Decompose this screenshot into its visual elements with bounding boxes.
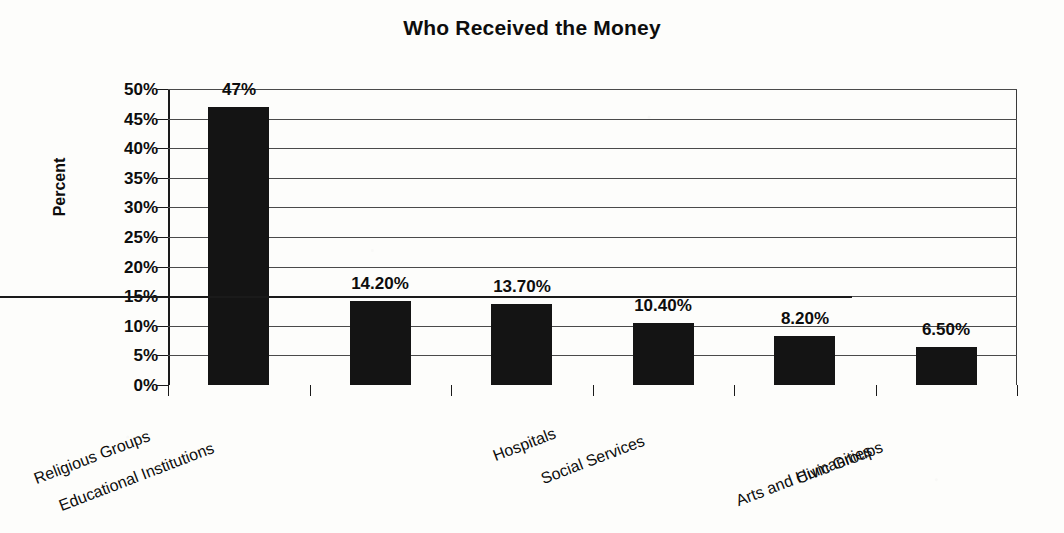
bar [350, 301, 411, 385]
bar [208, 107, 269, 385]
x-axis-tick-mark [734, 385, 735, 396]
y-axis-tick-labels: 50%45%40%35%30%25%20%15%10%5%0% [96, 89, 158, 385]
bar-value-label: 47% [174, 81, 304, 98]
bar-value-label: 13.70% [457, 278, 587, 295]
y-axis-tick-label: 5% [96, 347, 158, 364]
bar [491, 304, 552, 385]
x-axis-tick-mark [1017, 385, 1018, 396]
x-axis-category-label: Civic Groups [794, 438, 886, 488]
x-axis-tick-mark [451, 385, 452, 396]
y-axis-tick-mark [157, 385, 168, 386]
y-axis-tick-mark [157, 355, 168, 356]
bar [633, 323, 694, 385]
bar-chart: Who Received the Money Percent 50%45%40%… [0, 0, 1064, 533]
bar-value-label: 14.20% [315, 275, 445, 292]
x-axis-tick-mark [593, 385, 594, 396]
x-axis-tick-mark [168, 385, 169, 396]
gridline [168, 237, 1017, 238]
gridline [168, 148, 1017, 149]
y-axis-tick-label: 20% [96, 259, 158, 276]
bar-value-label: 10.40% [598, 297, 728, 314]
y-axis-tick-mark [157, 237, 168, 238]
y-axis-tick-label: 35% [96, 170, 158, 187]
bar [916, 347, 977, 385]
gridline [168, 355, 1017, 356]
y-axis-tick-mark [157, 267, 168, 268]
y-axis-tick-label: 50% [96, 81, 158, 98]
x-axis-tick-mark [310, 385, 311, 396]
gridline [168, 178, 1017, 179]
y-axis-tick-mark [157, 296, 168, 297]
bar [774, 336, 835, 385]
bar-value-label: 8.20% [740, 310, 870, 327]
y-axis-tick-label: 0% [96, 377, 158, 394]
y-axis-tick-label: 10% [96, 318, 158, 335]
y-axis-tick-mark [157, 89, 168, 90]
y-axis-tick-mark [157, 148, 168, 149]
y-axis-tick-mark [157, 119, 168, 120]
y-axis-tick-mark [157, 178, 168, 179]
plot-area [168, 89, 1017, 385]
chart-title: Who Received the Money [0, 16, 1064, 40]
y-axis-tick-label: 25% [96, 229, 158, 246]
y-axis-tick-label: 30% [96, 199, 158, 216]
gridline [168, 119, 1017, 120]
gridline [168, 207, 1017, 208]
y-axis-tick-mark [157, 207, 168, 208]
bar-value-label: 6.50% [881, 321, 1011, 338]
y-axis-title: Percent [51, 127, 69, 247]
y-axis-tick-label: 40% [96, 140, 158, 157]
y-axis-tick-mark [157, 326, 168, 327]
x-axis-category-label: Educational Institutions [57, 439, 217, 515]
gridline [168, 267, 1017, 268]
x-axis-tick-mark [876, 385, 877, 396]
y-axis-tick-label: 45% [96, 111, 158, 128]
x-axis-category-label: Hospitals [491, 425, 559, 465]
